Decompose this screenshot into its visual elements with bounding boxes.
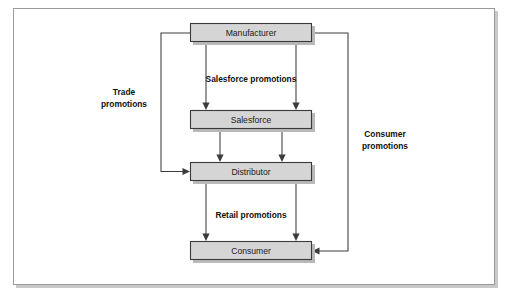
node-manufacturer[interactable]: Manufacturer <box>191 24 316 46</box>
label-trade-promotions-line2: promotions <box>101 99 147 109</box>
diagram-canvas: Manufacturer Salesforce Distributor Cons… <box>0 0 507 293</box>
node-distributor[interactable]: Distributor <box>191 163 316 185</box>
label-salesforce-promotions: Salesforce promotions <box>206 74 297 84</box>
node-consumer-label: Consumer <box>231 246 271 256</box>
label-consumer-promotions-line1: Consumer <box>364 129 406 139</box>
label-retail-promotions: Retail promotions <box>215 210 287 220</box>
node-salesforce-label: Salesforce <box>231 115 272 125</box>
label-consumer-promotions-line2: promotions <box>362 141 408 151</box>
node-consumer[interactable]: Consumer <box>191 242 316 264</box>
node-distributor-label: Distributor <box>231 167 270 177</box>
promotions-flow-diagram: Manufacturer Salesforce Distributor Cons… <box>0 0 507 293</box>
node-salesforce[interactable]: Salesforce <box>191 111 316 133</box>
label-trade-promotions-line1: Trade <box>113 87 136 97</box>
node-manufacturer-label: Manufacturer <box>226 28 277 38</box>
